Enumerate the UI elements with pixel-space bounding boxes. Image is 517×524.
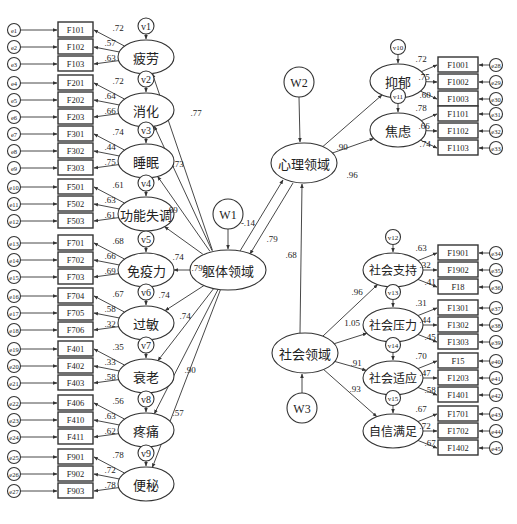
loading-label: .31 bbox=[415, 298, 426, 308]
loading-label: .69 bbox=[104, 266, 116, 276]
factor-社会适应-label: 社会适应 bbox=[369, 371, 417, 386]
indicator-F406-label: F406 bbox=[67, 398, 84, 408]
loading-label: .66 bbox=[418, 121, 430, 131]
error-e4-label: e4 bbox=[11, 80, 18, 87]
error-e36-label: e36 bbox=[491, 284, 501, 291]
structural-path-label: -.14 bbox=[241, 218, 256, 228]
indicator-F101-label: F101 bbox=[67, 25, 84, 35]
path-arrow bbox=[421, 65, 437, 72]
error-e21-label: e21 bbox=[9, 380, 18, 387]
indicator-F103-label: F103 bbox=[67, 59, 84, 69]
indicator-F1303-label: F1303 bbox=[447, 337, 469, 347]
error-e33-label: e33 bbox=[491, 145, 500, 152]
loading-label: .66 bbox=[104, 251, 116, 261]
factor-social-domain-label: 社会领域 bbox=[279, 347, 331, 362]
factor-psych-domain-label: 心理领域 bbox=[278, 157, 330, 172]
factor-loading-label: .96 bbox=[351, 287, 363, 297]
factor-消化-label: 消化 bbox=[133, 104, 159, 119]
error-e35-label: e35 bbox=[491, 267, 500, 274]
indicator-F702-label: F702 bbox=[67, 255, 84, 265]
indicator-F410-label: F410 bbox=[67, 415, 84, 425]
indicator-F704-label: F704 bbox=[67, 291, 85, 301]
error-e37-label: e37 bbox=[491, 305, 501, 312]
error-e5-label: e5 bbox=[11, 97, 17, 104]
indicator-F701-label: F701 bbox=[67, 238, 84, 248]
path-arrow bbox=[165, 286, 204, 311]
error-e15-label: e15 bbox=[9, 274, 18, 281]
indicator-F903-label: F903 bbox=[67, 486, 84, 496]
disturbance-v8-label: v8 bbox=[141, 394, 151, 405]
loading-label: .67 bbox=[424, 438, 436, 448]
indicator-F402-label: F402 bbox=[67, 361, 84, 371]
loading-label: .72 bbox=[415, 54, 426, 64]
loading-label: .63 bbox=[104, 195, 116, 205]
error-e18-label: e18 bbox=[9, 327, 18, 334]
disturbance-W2-label: W2 bbox=[290, 76, 307, 90]
factor-焦虑-label: 焦虑 bbox=[385, 124, 411, 139]
error-e8-label: e8 bbox=[11, 148, 17, 155]
loading-label: .72 bbox=[104, 465, 115, 475]
structural-path-label: .68 bbox=[285, 250, 297, 260]
error-e40-label: e40 bbox=[491, 358, 500, 365]
indicator-F1301-label: F1301 bbox=[447, 303, 469, 313]
error-e32-label: e32 bbox=[491, 128, 500, 135]
error-e20-label: e20 bbox=[9, 363, 18, 370]
indicator-F1001-label: F1001 bbox=[447, 60, 469, 70]
loading-label: .72 bbox=[419, 421, 430, 431]
loading-label: .78 bbox=[112, 450, 124, 460]
disturbance-v13-label: v13 bbox=[388, 289, 399, 297]
factor-疼痛-label: 疼痛 bbox=[133, 424, 159, 439]
factor-loading-label: .96 bbox=[346, 170, 358, 180]
loading-label: .61 bbox=[104, 210, 115, 220]
factor-loading-label: .73 bbox=[172, 159, 184, 169]
indicator-F705-label: F705 bbox=[67, 308, 84, 318]
loading-label: .47 bbox=[419, 368, 431, 378]
loading-label: .60 bbox=[419, 90, 431, 100]
path-arrow bbox=[421, 114, 437, 121]
error-e30-label: e30 bbox=[491, 96, 500, 103]
factor-loading-label: .93 bbox=[349, 384, 361, 394]
disturbance-v12-label: v12 bbox=[388, 234, 399, 242]
loading-label: .72 bbox=[112, 23, 123, 33]
loading-label: .32 bbox=[419, 260, 430, 270]
indicator-F401-label: F401 bbox=[67, 344, 84, 354]
error-e11-label: e11 bbox=[9, 201, 18, 208]
path-arrow bbox=[165, 227, 203, 254]
indicator-F706-label: F706 bbox=[67, 325, 84, 335]
loading-label: .72 bbox=[112, 76, 123, 86]
disturbance-v4-label: v4 bbox=[141, 178, 151, 189]
loading-label: .44 bbox=[104, 142, 116, 152]
error-e16-label: e16 bbox=[9, 293, 19, 300]
path-arrow bbox=[299, 97, 300, 142]
error-e10-label: e10 bbox=[9, 184, 18, 191]
indicator-F503-label: F503 bbox=[67, 216, 84, 226]
factor-过敏-label: 过敏 bbox=[133, 317, 159, 332]
loading-label: .62 bbox=[104, 426, 115, 436]
indicator-F18-label: F18 bbox=[451, 282, 464, 292]
disturbance-W3-label: W3 bbox=[293, 402, 310, 416]
error-e19-label: e19 bbox=[9, 346, 18, 353]
factor-loading-label: 1.05 bbox=[344, 318, 360, 328]
disturbance-v7-label: v7 bbox=[141, 340, 151, 351]
factor-loading-label: .77 bbox=[190, 108, 202, 118]
factor-loading-label: .91 bbox=[350, 358, 361, 368]
loading-label: .67 bbox=[112, 289, 124, 299]
loading-label: .63 bbox=[415, 243, 427, 253]
error-e9-label: e9 bbox=[11, 165, 17, 172]
factor-自信满足-label: 自信满足 bbox=[369, 425, 417, 439]
indicator-F15-label: F15 bbox=[451, 356, 464, 366]
disturbance-v14-label: v14 bbox=[388, 342, 399, 350]
loading-label: .75 bbox=[418, 72, 430, 82]
indicator-F203-label: F203 bbox=[67, 112, 84, 122]
error-e31-label: e31 bbox=[491, 111, 500, 118]
path-arrow bbox=[300, 184, 302, 333]
error-e13-label: e13 bbox=[9, 240, 18, 247]
loading-label: .70 bbox=[415, 351, 427, 361]
indicator-F1002-label: F1002 bbox=[447, 77, 469, 87]
factor-body-domain-label: 躯体领域 bbox=[202, 264, 254, 279]
loading-label: .61 bbox=[112, 180, 123, 190]
indicator-F301-label: F301 bbox=[67, 129, 84, 139]
factor-loading-label: .90 bbox=[184, 365, 196, 375]
disturbance-v9-label: v9 bbox=[141, 448, 151, 459]
factor-loading-label: .74 bbox=[179, 311, 191, 321]
